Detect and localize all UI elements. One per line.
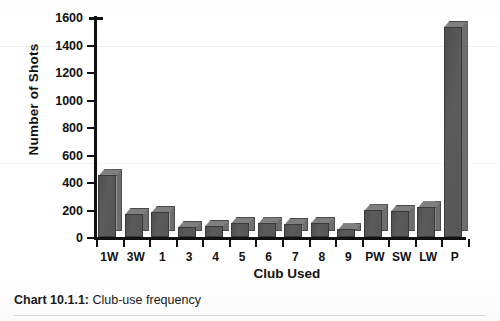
x-tick-label-4: 4 — [212, 250, 219, 264]
y-tick-mark — [89, 17, 103, 20]
x-tick-mark — [202, 239, 204, 247]
bar-P — [444, 27, 462, 237]
x-tick-mark — [123, 239, 125, 247]
y-tick-label: 1200 — [55, 66, 83, 80]
x-tick-label-1W: 1W — [100, 250, 118, 264]
bar-front-face — [151, 212, 169, 237]
x-axis-title: Club Used — [96, 266, 478, 281]
bar-1 — [151, 212, 169, 237]
x-tick-mark — [229, 239, 231, 247]
y-tick-label: 800 — [62, 121, 83, 135]
y-tick-mark — [87, 45, 96, 47]
y-tick-mark — [87, 237, 96, 239]
x-tick-label-1: 1 — [159, 250, 166, 264]
bar-PW — [364, 210, 382, 237]
bar-8 — [311, 223, 329, 237]
bar-front-face — [205, 226, 223, 237]
y-tick-mark — [87, 210, 96, 212]
y-axis-title: Number of Shots — [26, 25, 41, 175]
x-tick-mark — [415, 239, 417, 247]
y-tick-mark — [87, 72, 96, 74]
y-tick-mark — [87, 100, 96, 102]
caption-label: Chart 10.1.1: — [14, 293, 89, 307]
chart-figure: Number of Shots 020040060080010001200140… — [0, 0, 500, 285]
y-tick-mark — [87, 182, 96, 184]
x-tick-mark — [309, 239, 311, 247]
bar-4 — [205, 226, 223, 237]
x-tick-label-7: 7 — [292, 250, 299, 264]
y-tick-label: 0 — [76, 231, 83, 245]
plot-area: 02004006008001000120014001600 1W3W134567… — [96, 18, 478, 238]
x-tick-mark — [335, 239, 337, 247]
y-tick-mark — [87, 127, 96, 129]
y-tick-label: 1600 — [55, 11, 83, 25]
x-tick-label-LW: LW — [419, 250, 437, 264]
bar-1W — [98, 175, 116, 237]
x-tick-mark — [388, 239, 390, 247]
x-tick-label-5: 5 — [239, 250, 246, 264]
bar-front-face — [125, 214, 143, 237]
x-tick-label-3W: 3W — [127, 250, 145, 264]
bar-7 — [284, 224, 302, 237]
bar-3 — [178, 227, 196, 237]
figure-caption: Chart 10.1.1: Club-use frequency — [14, 293, 201, 307]
bar-front-face — [391, 211, 409, 237]
x-tick-mark — [255, 239, 257, 247]
y-tick-label: 1000 — [55, 94, 83, 108]
bar-front-face — [337, 229, 355, 237]
x-tick-mark — [282, 239, 284, 247]
y-tick-label: 200 — [62, 204, 83, 218]
bar-front-face — [311, 223, 329, 237]
bar-side-face — [462, 21, 468, 231]
y-tick-label: 600 — [62, 149, 83, 163]
x-tick-label-P: P — [451, 250, 459, 264]
x-tick-mark — [149, 239, 151, 247]
horizontal-rule — [14, 315, 486, 316]
bar-SW — [391, 211, 409, 237]
bar-6 — [258, 223, 276, 237]
x-tick-label-SW: SW — [392, 250, 411, 264]
x-tick-label-9: 9 — [345, 250, 352, 264]
bar-front-face — [178, 227, 196, 237]
x-tick-mark — [362, 239, 364, 247]
bar-front-face — [231, 223, 249, 237]
y-tick-label: 1400 — [55, 39, 83, 53]
x-tick-label-8: 8 — [319, 250, 326, 264]
bar-side-face — [116, 169, 122, 231]
x-tick-mark — [176, 239, 178, 247]
bar-front-face — [258, 223, 276, 237]
bar-LW — [417, 207, 435, 237]
x-tick-mark — [441, 239, 443, 247]
bar-9 — [337, 229, 355, 237]
x-tick-mark — [96, 239, 98, 247]
caption-text: Club-use frequency — [89, 293, 201, 307]
bar-3W — [125, 214, 143, 237]
bar-5 — [231, 223, 249, 237]
bar-front-face — [417, 207, 435, 237]
y-tick-mark — [87, 155, 96, 157]
x-tick-label-3: 3 — [186, 250, 193, 264]
x-tick-mark — [468, 239, 470, 247]
x-tick-label-6: 6 — [265, 250, 272, 264]
bar-front-face — [284, 224, 302, 237]
x-tick-label-PW: PW — [365, 250, 384, 264]
y-tick-label: 400 — [62, 176, 83, 190]
bar-front-face — [98, 175, 116, 237]
bar-front-face — [364, 210, 382, 237]
bar-front-face — [444, 27, 462, 237]
